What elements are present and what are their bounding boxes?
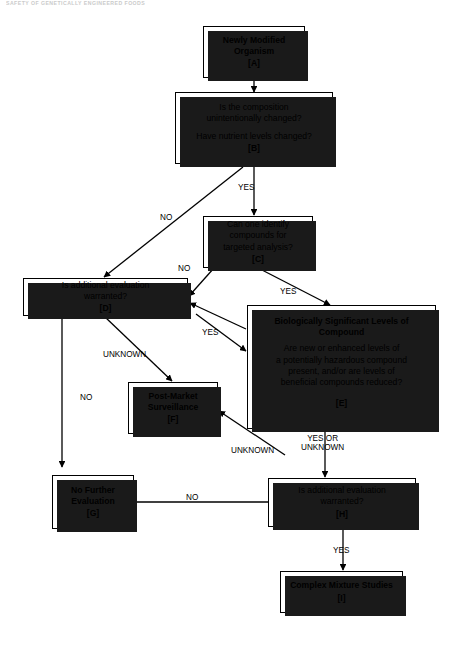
edge-label-e-yes-or-unknown: YES OR UNKNOWN	[301, 434, 344, 453]
node-d-line1: Is additional evaluation	[62, 280, 149, 291]
node-e-line2: a potentially hazardous compound	[276, 355, 407, 366]
node-h[interactable]: Is additional evaluation warranted? [H]	[268, 478, 416, 527]
node-e-line1: Are new or enhanced levels of	[284, 343, 400, 354]
edge-label-h-yes: YES	[333, 546, 349, 555]
edge-label-h-no: NO	[186, 493, 198, 502]
node-f-line2: Surveillance	[148, 402, 199, 413]
node-i-tag: [I]	[337, 593, 345, 604]
node-h-tag: [H]	[336, 509, 348, 520]
node-h-line1: Is additional evaluation	[298, 485, 385, 496]
node-i-line1: Complex Mixture Studies	[290, 580, 393, 591]
node-d[interactable]: Is additional evaluation warranted? [D]	[23, 278, 188, 316]
node-b-tag: [B]	[248, 143, 260, 154]
edge-label-d-no: NO	[80, 393, 92, 402]
node-g-line1: No Further	[71, 485, 115, 496]
node-a[interactable]: Newly Modified Organism [A]	[203, 26, 305, 78]
node-b[interactable]: Is the composition unintentionally chang…	[175, 92, 333, 164]
edge-label-c-yes: YES	[280, 287, 296, 296]
node-e-heading-line1: Biologically Significant Levels of	[274, 316, 408, 327]
node-e-line3: present, and/or are levels of	[288, 366, 395, 377]
node-e[interactable]: Biologically Significant Levels of Compo…	[247, 305, 436, 429]
edge-label-b-no: NO	[160, 213, 172, 222]
node-d-line2: warranted?	[84, 291, 127, 302]
flowchart-page: SAFETY OF GENETICALLY ENGINEERED FOODS	[0, 0, 456, 651]
node-b-line2: unintentionally changed?	[206, 113, 301, 124]
node-c-tag: [C]	[252, 254, 264, 265]
node-b-line3: Have nutrient levels changed?	[196, 131, 312, 142]
node-e-heading-line2: Compound	[274, 327, 408, 338]
node-g-line2: Evaluation	[71, 496, 114, 507]
edge-c-d	[189, 268, 214, 296]
node-c[interactable]: Can one identify compounds for targeted …	[203, 216, 313, 268]
node-c-line1: Can one identify	[227, 219, 289, 230]
node-b-line1: Is the composition	[219, 102, 288, 113]
edge-label-d-yes: YES	[202, 328, 218, 337]
node-c-line2: compounds for	[230, 230, 287, 241]
node-f-line1: Post-Market	[148, 391, 197, 402]
node-g-tag: [G]	[87, 508, 99, 519]
node-g[interactable]: No Further Evaluation [G]	[52, 475, 134, 529]
node-c-line3: targeted analysis?	[223, 242, 293, 253]
edge-label-c-no: NO	[178, 264, 190, 273]
edge-label-b-yes: YES	[238, 183, 254, 192]
node-h-line2: warranted?	[321, 496, 364, 507]
edge-label-e-line1: YES OR	[307, 434, 338, 443]
node-a-tag: [A]	[248, 58, 260, 69]
node-f[interactable]: Post-Market Surveillance [F]	[128, 382, 218, 434]
node-a-line1: Newly Modified	[223, 35, 286, 46]
edge-d-f	[105, 317, 172, 381]
node-f-tag: [F]	[168, 414, 179, 425]
node-e-heading: Biologically Significant Levels of Compo…	[274, 316, 408, 338]
edge-label-h-unknown: UNKNOWN	[231, 446, 274, 455]
node-e-line4: beneficial compounds reduced?	[281, 377, 402, 388]
node-a-line2: Organism	[234, 46, 274, 57]
edge-label-e-line2: UNKNOWN	[301, 443, 344, 452]
node-e-tag: [E]	[336, 398, 347, 409]
node-d-tag: [D]	[100, 303, 112, 314]
edge-label-d-unknown: UNKNOWN	[103, 350, 146, 359]
node-i[interactable]: Complex Mixture Studies [I]	[280, 571, 403, 613]
